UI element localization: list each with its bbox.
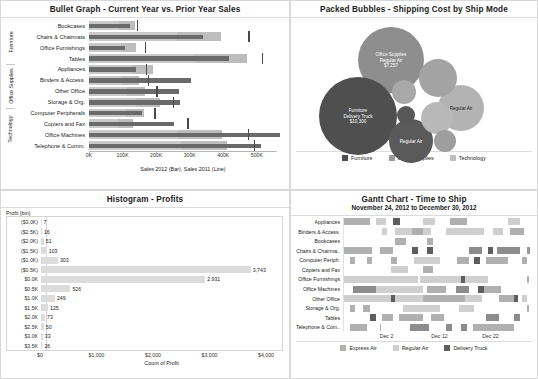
- gantt-segment[interactable]: [395, 295, 423, 302]
- gantt-legend-item[interactable]: Regular Air: [393, 345, 429, 351]
- histogram-bin-label: $2.0K: [7, 314, 41, 320]
- histogram-bin-label: ($2.5K): [7, 229, 41, 235]
- gantt-segment[interactable]: [382, 228, 388, 235]
- gantt-segment[interactable]: [457, 257, 468, 264]
- gantt-segment[interactable]: [403, 305, 441, 312]
- gantt-row-track: [343, 236, 533, 246]
- histogram-bar-value: 303: [60, 257, 69, 263]
- gantt-segment[interactable]: [376, 218, 385, 225]
- gantt-segment[interactable]: [446, 228, 484, 235]
- bubble-furniture-delivery-truck[interactable]: Furniture Delivery Truck $10,300: [319, 77, 397, 155]
- gantt-segment[interactable]: [461, 324, 467, 331]
- gantt-segment[interactable]: [527, 276, 529, 283]
- gantt-segment[interactable]: [380, 247, 393, 254]
- gantt-segment[interactable]: [353, 286, 376, 293]
- histogram-bin-label: $3.0K: [7, 333, 41, 339]
- gantt-segment[interactable]: [423, 218, 434, 225]
- gantt-segment[interactable]: [431, 314, 444, 321]
- gantt-segment[interactable]: [456, 286, 469, 293]
- gantt-row-label: Office Machines: [293, 286, 343, 292]
- gantt-segment[interactable]: [376, 286, 423, 293]
- gantt-legend-item[interactable]: Express Air: [340, 345, 376, 351]
- gantt-segment[interactable]: [423, 295, 465, 302]
- gantt-segment[interactable]: [469, 247, 482, 254]
- histogram-row: $1.0K249: [7, 293, 282, 303]
- gantt-segment[interactable]: [473, 324, 515, 331]
- gantt-segment[interactable]: [427, 286, 446, 293]
- gantt-segment[interactable]: [499, 295, 514, 302]
- gantt-segment[interactable]: [391, 257, 397, 264]
- bullet-row-track: [89, 64, 283, 75]
- gantt-segment[interactable]: [486, 257, 509, 264]
- gantt-segment[interactable]: [344, 295, 391, 302]
- gantt-segment[interactable]: [461, 276, 465, 283]
- bullet-tick-label: 300K: [184, 152, 196, 158]
- gantt-segment[interactable]: [412, 228, 423, 235]
- gantt-segment[interactable]: [350, 324, 367, 331]
- gantt-segment[interactable]: [344, 218, 370, 225]
- histogram-bar-track: 303: [41, 255, 282, 265]
- gantt-segment[interactable]: [508, 218, 519, 225]
- bullet-row-track: [89, 31, 283, 42]
- bullet-graph-title: Bullet Graph - Current Year vs. Prior Ye…: [1, 1, 289, 14]
- gantt-legend-item[interactable]: Delivery Truck: [444, 345, 487, 351]
- gantt-segment[interactable]: [382, 314, 393, 321]
- gantt-row: Tables: [293, 313, 533, 323]
- gantt-segment[interactable]: [344, 247, 372, 254]
- histogram-bar-value: 526: [72, 286, 81, 292]
- gantt-segment[interactable]: [427, 247, 433, 254]
- histogram-title: Histogram - Profits: [1, 191, 289, 204]
- gantt-segment[interactable]: [423, 266, 432, 273]
- gantt-segment[interactable]: [399, 314, 424, 321]
- gantt-row-track: [343, 294, 533, 304]
- gantt-segment[interactable]: [393, 218, 400, 225]
- gantt-segment[interactable]: [486, 314, 499, 321]
- gantt-segment[interactable]: [367, 257, 373, 264]
- gantt-segment[interactable]: [427, 238, 433, 245]
- gantt-segment[interactable]: [363, 305, 371, 312]
- gantt-legend-label: Express Air: [349, 345, 376, 351]
- gantt-segment[interactable]: [446, 324, 452, 331]
- gantt-rows: AppliancesBinders & Access.BookcasesChai…: [291, 216, 537, 332]
- gantt-segment[interactable]: [412, 247, 418, 254]
- gantt-segment[interactable]: [514, 314, 520, 321]
- histogram-bar: [41, 257, 58, 264]
- gantt-segment[interactable]: [488, 247, 494, 254]
- gantt-segment[interactable]: [410, 324, 429, 331]
- gantt-segment[interactable]: [510, 228, 523, 235]
- gantt-row: Telephone & Com..: [293, 323, 533, 333]
- gantt-segment[interactable]: [380, 324, 382, 331]
- gantt-segment[interactable]: [493, 228, 502, 235]
- gantt-segment[interactable]: [450, 218, 467, 225]
- gantt-segment[interactable]: [350, 305, 356, 312]
- gantt-segment[interactable]: [395, 238, 406, 245]
- bullet-tick-label: 500K: [251, 152, 263, 158]
- gantt-segment[interactable]: [527, 305, 529, 312]
- gantt-segment[interactable]: [522, 295, 528, 302]
- bubble-office-supplies-express-air[interactable]: [392, 80, 416, 104]
- gantt-segment[interactable]: [527, 247, 529, 254]
- histogram-bar-track: 249: [41, 293, 282, 303]
- bullet-x-axis: 0K100K200K300K400K500K: [89, 151, 277, 160]
- gantt-segment[interactable]: [344, 276, 418, 283]
- bubble-furniture-express-air[interactable]: [434, 130, 456, 152]
- gantt-segment[interactable]: [370, 314, 376, 321]
- gantt-segment[interactable]: [497, 247, 520, 254]
- bullet-reference-line-sales-2011: [145, 42, 146, 53]
- bullet-tick-label: 400K: [217, 152, 229, 158]
- gantt-segment[interactable]: [514, 295, 518, 302]
- bubbles-legend-item[interactable]: Furniture: [342, 155, 373, 161]
- bullet-row-track: [89, 75, 283, 86]
- gantt-segment[interactable]: [459, 305, 474, 312]
- gantt-segment[interactable]: [522, 257, 528, 264]
- gantt-segment[interactable]: [391, 266, 408, 273]
- gantt-segment[interactable]: [350, 257, 356, 264]
- gantt-segment[interactable]: [471, 276, 488, 283]
- bullet-row-track: [89, 108, 283, 119]
- gantt-segment[interactable]: [484, 286, 501, 293]
- gantt-segment[interactable]: [465, 295, 482, 302]
- bubbles-legend-item[interactable]: Technology: [450, 155, 486, 161]
- gantt-row-track: [343, 303, 533, 313]
- gantt-segment[interactable]: [414, 257, 440, 264]
- gantt-segment[interactable]: [474, 257, 480, 264]
